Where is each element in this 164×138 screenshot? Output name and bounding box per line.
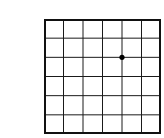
grid-diagram [44, 19, 161, 134]
grid-canvas [44, 19, 161, 134]
grid-point-marker [119, 55, 124, 60]
